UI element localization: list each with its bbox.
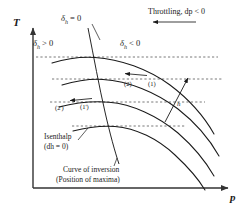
process-arrow-lower [70, 99, 92, 101]
inversion-caption-line2: (Position of maxima) [56, 176, 120, 184]
point-1-label: (1) [148, 80, 156, 87]
enthalpy-label: h [177, 101, 181, 109]
point-2-prime-label: (2') [55, 104, 64, 111]
point-2-label: (2) [124, 80, 132, 87]
x-axis-label: p [230, 191, 236, 203]
leader-delta-zero [92, 24, 100, 40]
isenthalp-note-line1: Isenthalp [44, 133, 72, 141]
inversion-caption-line1: Curve of inversion [63, 166, 119, 174]
isenthalp-note-line2: (dh = 0) [44, 143, 68, 151]
inversion-curve [88, 28, 119, 164]
isenthalp-curve-2 [62, 79, 219, 156]
process-arrow-upper [125, 74, 147, 76]
joule-thomson-diagram: T p Throttling, dp < 0 δh = 0 δh > 0 δh … [0, 0, 247, 211]
point-1-prime-label: (1') [80, 103, 89, 110]
diagram-canvas [0, 0, 247, 211]
maxima-dotted-lines [36, 57, 222, 126]
delta-h-equals-zero-label: δh = 0 [61, 14, 81, 25]
delta-h-negative-label: δh < 0 [120, 39, 140, 50]
throttling-label: Throttling, dp < 0 [148, 8, 205, 17]
isenthalp-curve-1 [52, 57, 214, 134]
y-axis-label: T [13, 16, 20, 28]
delta-h-positive-label: δh > 0 [33, 39, 53, 50]
